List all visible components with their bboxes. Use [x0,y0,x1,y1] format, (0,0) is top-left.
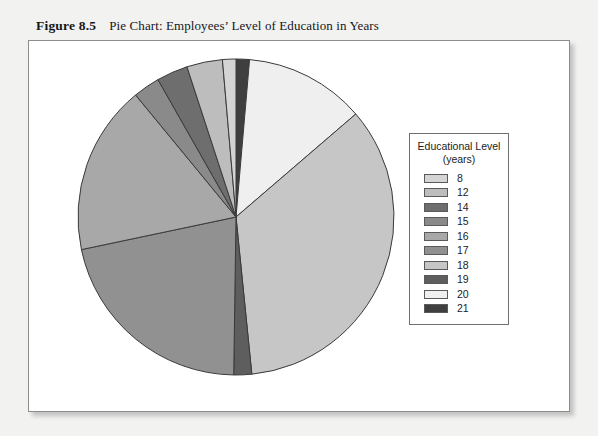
legend-swatch-icon [424,217,448,226]
figure-number: Figure 8.5 [36,18,96,33]
legend-title-line1: Educational Level [416,140,502,153]
legend-swatch-icon [424,174,448,183]
legend-item: 20 [416,287,502,302]
legend-title-line2: (years) [416,153,502,166]
legend-swatch-icon [424,275,448,284]
legend-item-label: 15 [457,216,469,227]
legend-swatch-icon [424,304,448,313]
legend-item-label: 12 [457,187,469,198]
legend-title: Educational Level (years) [416,140,502,166]
legend-item-label: 14 [457,202,469,213]
chart-legend: Educational Level (years) 81214151617181… [409,133,509,325]
legend-item: 21 [416,302,502,317]
legend-item: 19 [416,273,502,288]
legend-item-label: 18 [457,260,469,271]
legend-swatch-icon [424,188,448,197]
legend-items: 8121415161718192021 [416,171,502,316]
legend-swatch-icon [424,203,448,212]
legend-item-label: 19 [457,274,469,285]
legend-item-label: 16 [457,231,469,242]
figure-caption: Figure 8.5Pie Chart: Employees’ Level of… [36,16,379,34]
legend-swatch-icon [424,290,448,299]
legend-item-label: 20 [457,289,469,300]
legend-item-label: 17 [457,245,469,256]
chart-panel: Educational Level (years) 81214151617181… [28,40,570,412]
figure-title: Pie Chart: Employees’ Level of Education… [109,18,379,33]
legend-item: 14 [416,200,502,215]
legend-item-label: 8 [457,173,463,184]
legend-item: 17 [416,244,502,259]
legend-item-label: 21 [457,303,469,314]
legend-item: 16 [416,229,502,244]
legend-item: 15 [416,215,502,230]
legend-swatch-icon [424,232,448,241]
legend-swatch-icon [424,246,448,255]
figure-page: Figure 8.5Pie Chart: Employees’ Level of… [0,0,598,436]
legend-swatch-icon [424,261,448,270]
legend-item: 12 [416,186,502,201]
legend-item: 8 [416,171,502,186]
legend-item: 18 [416,258,502,273]
